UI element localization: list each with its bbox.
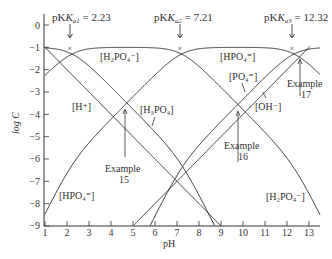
y-tick-label: −6	[29, 153, 40, 164]
pka3-label: pKKa3 = 12.32	[264, 11, 328, 25]
x-marker: ×	[68, 44, 73, 53]
x-tick-label: 10	[238, 227, 248, 238]
y-tick-label: −9	[29, 220, 40, 231]
x-tick-label: 13	[304, 227, 314, 238]
axis-ticks: 123456789101112130−1−2−3−4−5−6−7−8−9	[29, 20, 314, 239]
x-axis-label: pH	[163, 238, 175, 249]
x-tick-label: 1	[43, 227, 48, 238]
label-h2po4-bottom: [H₂PO₄⁻]	[266, 191, 305, 202]
label-hpo4-bottom: [HPO₄⁼]	[59, 190, 94, 201]
example17-label: Example 17	[287, 78, 325, 100]
pka1-label: pKKa1 = 2.23	[52, 11, 111, 25]
y-tick-label: 0	[35, 20, 40, 31]
label-h-plus: [H⁺]	[72, 101, 91, 112]
x-tick-label: 6	[153, 227, 158, 238]
label-hpo4-top: [HPO₄⁼]	[220, 51, 255, 62]
x-tick-label: 2	[65, 227, 70, 238]
example16-label: Example 16	[224, 140, 262, 162]
x-tick-label: 3	[87, 227, 92, 238]
y-tick-label: −4	[29, 109, 40, 120]
x-tick-label: 5	[131, 227, 136, 238]
y-tick-label: −7	[29, 176, 40, 187]
x-tick-label: 12	[282, 227, 292, 238]
x-tick-label: 7	[175, 227, 180, 238]
x-marker: ×	[290, 44, 295, 53]
pka-markers	[68, 24, 295, 38]
y-tick-label: −5	[29, 131, 40, 142]
y-tick-label: −2	[29, 64, 40, 75]
example15-label: Example 15	[105, 163, 143, 185]
y-tick-label: −8	[29, 198, 40, 209]
x-tick-label: 8	[197, 227, 202, 238]
label-oh-minus: [OH⁻]	[255, 101, 281, 112]
label-po4: [PO₄⁼]	[229, 71, 257, 82]
x-tick-label: 4	[109, 227, 114, 238]
x-tick-label: 9	[219, 227, 224, 238]
label-h3po4: [H₃PO₄]	[140, 104, 174, 115]
label-h2po4-top: [H₂PO₄⁻]	[100, 51, 139, 62]
x-marker: ×	[178, 44, 183, 53]
y-tick-label: −1	[29, 42, 40, 53]
x-tick-label: 11	[260, 227, 270, 238]
y-tick-label: −3	[29, 86, 40, 97]
log-c-ph-chart: 123456789101112130−1−2−3−4−5−6−7−8−9 × ×…	[0, 0, 332, 259]
pka2-label: pKKa2 = 7.21	[154, 11, 213, 25]
y-axis-label: log C	[10, 112, 21, 134]
